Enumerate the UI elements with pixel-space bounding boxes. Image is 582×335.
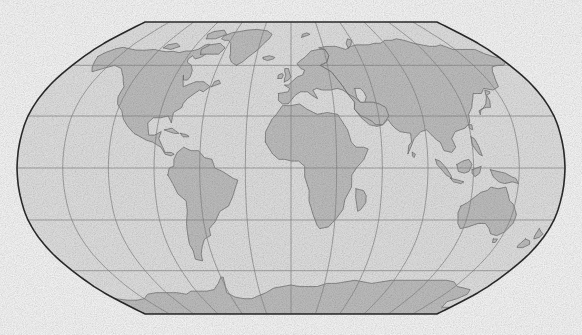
world-map-figure: Outline world map on a Robinson projecti…: [0, 0, 582, 335]
world-map-canvas: [0, 0, 582, 335]
